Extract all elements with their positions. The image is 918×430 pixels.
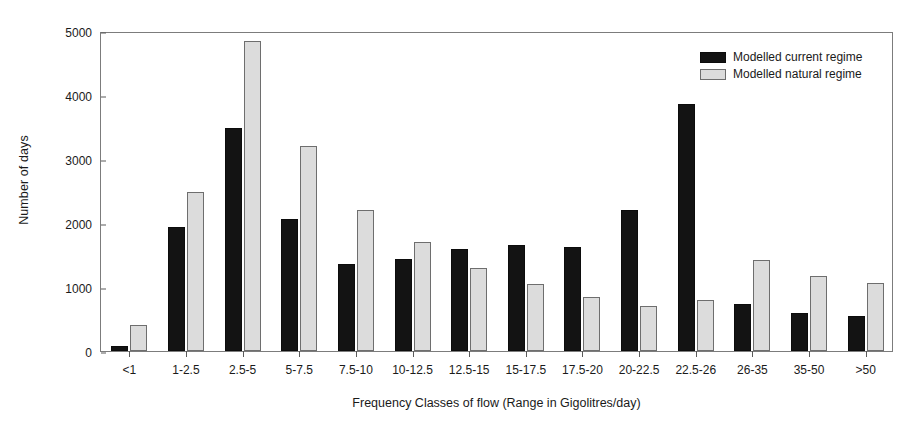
x-tick-mark [752,351,753,357]
bar-natural-regime[interactable] [187,192,204,351]
x-tick-mark [299,351,300,357]
x-tick-mark [356,351,357,357]
x-tick-label: 35-50 [794,363,825,377]
y-tick-label: 3000 [65,154,101,168]
x-tick-mark [413,351,414,357]
x-tick-mark [696,351,697,357]
legend-item[interactable]: Modelled current regime [700,50,862,64]
y-tick-label: 4000 [65,90,101,104]
x-tick-mark [243,351,244,357]
bar-natural-regime[interactable] [130,325,147,351]
bar-group [554,33,611,351]
bar-natural-regime[interactable] [697,300,714,351]
bar-natural-regime[interactable] [527,284,544,351]
y-axis-title: Number of days [8,0,40,360]
bar-group [384,33,441,351]
x-tick-mark [582,351,583,357]
bar-current-regime[interactable] [168,227,185,351]
x-tick-mark [469,351,470,357]
legend-swatch-natural [700,69,726,80]
x-tick-label: >50 [855,363,875,377]
bar-current-regime[interactable] [395,259,412,351]
x-tick-label: 5-7.5 [286,363,313,377]
x-tick-mark [866,351,867,357]
bar-group [158,33,215,351]
bar-chart-figure: Number of days 010002000300040005000 <11… [0,0,918,430]
x-tick-label: 20-22.5 [619,363,660,377]
legend-item[interactable]: Modelled natural regime [700,67,862,81]
y-tick-label: 2000 [65,218,101,232]
x-tick-mark [129,351,130,357]
chart-legend: Modelled current regimeModelled natural … [700,50,862,81]
x-tick-mark [809,351,810,357]
y-tick-mark [101,353,106,354]
y-tick-label: 5000 [65,26,101,40]
legend-label: Modelled current regime [733,50,862,64]
x-tick-mark [639,351,640,357]
legend-swatch-current [700,52,726,63]
x-tick-label: 17.5-20 [562,363,603,377]
bar-natural-regime[interactable] [810,276,827,351]
bar-current-regime[interactable] [225,128,242,351]
bar-current-regime[interactable] [621,210,638,351]
x-tick-label: 1-2.5 [172,363,199,377]
bar-current-regime[interactable] [451,249,468,351]
bar-current-regime[interactable] [734,304,751,351]
x-tick-label: 15-17.5 [505,363,546,377]
x-tick-label: <1 [122,363,136,377]
bar-current-regime[interactable] [508,245,525,351]
bar-group [611,33,668,351]
y-tick-label: 0 [85,346,101,360]
bar-group [271,33,328,351]
x-tick-label: 26-35 [737,363,768,377]
x-tick-mark [526,351,527,357]
bar-group [328,33,385,351]
bar-group [214,33,271,351]
bar-natural-regime[interactable] [753,260,770,351]
bar-current-regime[interactable] [281,219,298,351]
bar-natural-regime[interactable] [357,210,374,351]
bar-current-regime[interactable] [678,104,695,351]
bar-group [441,33,498,351]
bar-natural-regime[interactable] [583,297,600,351]
bar-group [498,33,555,351]
bar-current-regime[interactable] [791,313,808,351]
bar-current-regime[interactable] [338,264,355,351]
x-tick-label: 12.5-15 [449,363,490,377]
bar-current-regime[interactable] [111,346,128,351]
x-tick-label: 22.5-26 [675,363,716,377]
x-axis-title: Frequency Classes of flow (Range in Gigo… [100,396,893,410]
bar-natural-regime[interactable] [414,242,431,351]
bar-natural-regime[interactable] [470,268,487,351]
bar-natural-regime[interactable] [300,146,317,351]
x-tick-label: 7.5-10 [339,363,373,377]
x-tick-label: 10-12.5 [392,363,433,377]
bar-natural-regime[interactable] [867,283,884,351]
bar-current-regime[interactable] [848,316,865,351]
bar-current-regime[interactable] [564,247,581,351]
bar-natural-regime[interactable] [640,306,657,351]
legend-label: Modelled natural regime [733,67,862,81]
y-tick-label: 1000 [65,282,101,296]
x-tick-mark [186,351,187,357]
bar-group [101,33,158,351]
x-tick-label: 2.5-5 [229,363,256,377]
y-axis-title-text: Number of days [17,135,31,225]
bar-natural-regime[interactable] [244,41,261,351]
